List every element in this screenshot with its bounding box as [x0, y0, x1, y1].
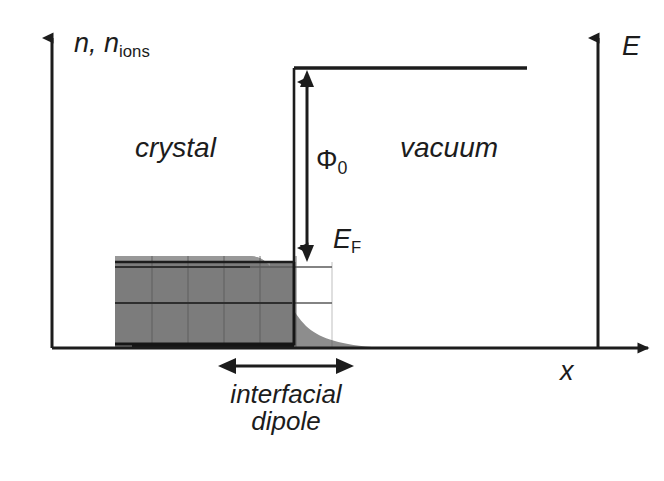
crystal-region-label: crystal — [135, 133, 216, 162]
vacuum-region-label: vacuum — [400, 133, 498, 162]
work-function-arrowhead-up — [300, 70, 314, 87]
y-axis-left-label: n, nions — [74, 29, 150, 60]
interfacial-dipole-caption: interfacial dipole — [166, 381, 406, 436]
work-function-label: Φ0 — [316, 146, 347, 177]
fermi-level-subscript: F — [351, 238, 361, 257]
work-function-symbol: Φ — [316, 145, 338, 175]
figure-root: n, nions E x crystal vacuum Φ0 EF interf… — [0, 0, 664, 481]
fermi-level-symbol: E — [333, 224, 351, 254]
ion-background-block — [115, 262, 295, 348]
y-axis-left-label-main: n, n — [74, 28, 119, 58]
x-axis-label: x — [560, 357, 574, 385]
work-function-arrowhead-down — [300, 245, 314, 262]
fermi-level-label: EF — [333, 225, 361, 256]
y-axis-right-label: E — [622, 32, 640, 60]
interfacial-dipole-caption-line1: interfacial — [166, 381, 406, 408]
density-shading-group — [115, 256, 372, 348]
interfacial-dipole-caption-line2: dipole — [166, 408, 406, 435]
interfacial-dipole-arrowhead-left — [218, 358, 236, 374]
interfacial-dipole-arrowhead-right — [336, 358, 354, 374]
y-axis-left-label-subscript: ions — [119, 42, 150, 61]
work-function-subscript: 0 — [338, 158, 348, 178]
